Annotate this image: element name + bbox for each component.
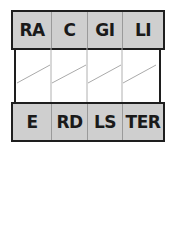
bottom-word-row: E RD LS TER [11, 102, 165, 142]
bottom-cell-1: E [13, 104, 52, 140]
bottom-cell-2: RD [52, 104, 88, 140]
bottom-cell-4: TER [123, 104, 163, 140]
bottom-cell-3: LS [88, 104, 123, 140]
